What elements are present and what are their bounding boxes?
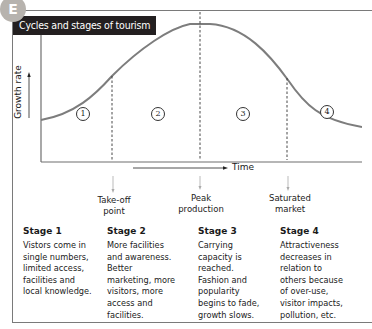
saturated-arrow-icon xyxy=(287,187,290,191)
saturated-marker: Saturatedmarket xyxy=(262,193,318,215)
diagram-title: Cycles and stages of tourism xyxy=(13,16,156,35)
takeoff-arrow-icon xyxy=(112,189,115,193)
stage-4-description: Stage 4 Attractivenessdecreases inrelati… xyxy=(280,240,343,321)
stage-number-2: 2 xyxy=(151,107,165,121)
stage-1-description: Stage 1 Vistors come insingle numbers,li… xyxy=(23,240,92,298)
x-arrowhead-icon xyxy=(223,166,228,169)
peak-arrow-icon xyxy=(199,186,202,190)
stage-number-3: 3 xyxy=(236,107,250,121)
x-axis-label: Time xyxy=(232,162,254,172)
takeoff-marker: Take-offpoint xyxy=(88,195,140,217)
stage-number-1: 1 xyxy=(76,107,90,121)
y-axis-label: Growth rate xyxy=(12,62,24,122)
peak-marker: Peakproduction xyxy=(168,193,234,215)
y-arrowhead-icon xyxy=(27,72,30,77)
stage-3-description: Stage 3 Carryingcapacity isreached.Fashi… xyxy=(198,240,259,321)
stage-number-4: 4 xyxy=(320,105,334,119)
stage-2-description: Stage 2 More facilitiesand awareness.Bet… xyxy=(107,240,175,321)
